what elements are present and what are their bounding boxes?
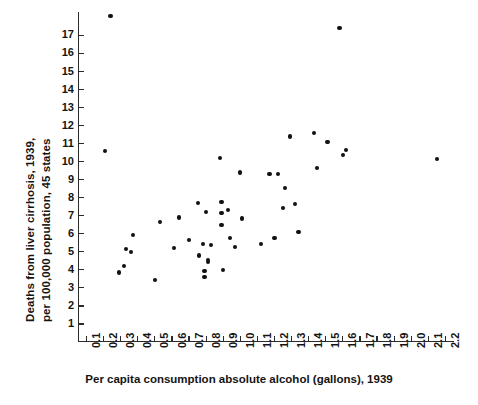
- data-point: [177, 215, 181, 219]
- x-tick-mark: [188, 336, 189, 342]
- y-tick-mark: [79, 269, 84, 270]
- y-tick-label: 4: [58, 264, 74, 275]
- data-point: [202, 275, 206, 279]
- data-point: [344, 148, 348, 152]
- data-point: [276, 172, 280, 176]
- y-tick-label: 6: [58, 228, 74, 239]
- x-tick-label: 1.4: [313, 333, 324, 348]
- data-point: [103, 149, 107, 153]
- y-tick-label: 14: [58, 84, 74, 95]
- data-point: [158, 220, 162, 224]
- y-tick-label: 3: [58, 282, 74, 293]
- x-tick-label: 2.2: [450, 333, 461, 348]
- x-tick-label: 0.7: [194, 333, 205, 348]
- data-point: [219, 200, 223, 204]
- data-point: [259, 242, 263, 246]
- x-tick-mark: [411, 336, 412, 342]
- y-tick-mark: [79, 197, 84, 198]
- y-tick-label: 7: [58, 210, 74, 221]
- data-point: [219, 223, 223, 227]
- y-tick-mark: [79, 107, 84, 108]
- x-tick-mark: [103, 336, 104, 342]
- data-point: [117, 270, 121, 274]
- x-tick-mark: [325, 336, 326, 342]
- data-point: [221, 268, 225, 272]
- x-tick-label: 1.5: [330, 333, 341, 348]
- x-tick-mark: [342, 336, 343, 342]
- x-tick-mark: [240, 336, 241, 342]
- data-point: [226, 208, 230, 212]
- y-tick-label: 9: [58, 174, 74, 185]
- data-point: [131, 233, 135, 237]
- data-point: [196, 201, 200, 205]
- x-tick-label: 0.6: [177, 333, 188, 348]
- x-tick-mark: [308, 336, 309, 342]
- y-tick-mark: [79, 305, 84, 306]
- x-tick-label: 0.8: [211, 333, 222, 348]
- data-point: [197, 253, 201, 257]
- y-tick-mark: [79, 287, 84, 288]
- data-point: [283, 186, 287, 190]
- data-point: [267, 172, 271, 176]
- data-point: [219, 211, 223, 215]
- x-tick-label: 1.6: [347, 333, 358, 348]
- y-tick-label: 15: [58, 66, 74, 77]
- data-point: [341, 153, 345, 157]
- x-tick-mark: [223, 336, 224, 342]
- y-tick-mark: [79, 215, 84, 216]
- y-tick-label: 1: [58, 318, 74, 329]
- data-point: [201, 242, 205, 246]
- data-point: [240, 216, 244, 220]
- x-tick-mark: [120, 336, 121, 342]
- x-tick-label: 1.0: [245, 333, 256, 348]
- y-tick-mark: [79, 89, 84, 90]
- x-tick-mark: [428, 336, 429, 342]
- x-tick-mark: [274, 336, 275, 342]
- data-point: [296, 230, 300, 234]
- y-tick-mark: [79, 35, 84, 36]
- y-tick-mark: [79, 125, 84, 126]
- y-axis-title: Deaths from liver cirrhosis, 1939, per 1…: [0, 0, 58, 360]
- x-tick-mark: [445, 336, 446, 342]
- x-tick-label: 1.1: [262, 333, 273, 348]
- y-tick-mark: [79, 143, 84, 144]
- x-tick-label: 0.3: [125, 333, 136, 348]
- x-axis-title: Per capita consumption absolute alcohol …: [0, 373, 478, 385]
- x-tick-label: 0.9: [228, 333, 239, 348]
- data-point: [435, 157, 439, 161]
- x-tick-label: 1.3: [296, 333, 307, 348]
- data-point: [312, 131, 316, 135]
- y-tick-label: 8: [58, 192, 74, 203]
- data-point: [272, 236, 276, 240]
- data-point: [281, 206, 285, 210]
- data-point: [172, 246, 176, 250]
- y-tick-label: 10: [58, 156, 74, 167]
- y-axis-title-line-2: per 100,000 population, 45 states: [40, 138, 52, 322]
- data-point: [337, 26, 341, 30]
- data-point: [325, 140, 329, 144]
- data-point: [206, 260, 210, 264]
- data-point: [228, 236, 232, 240]
- y-tick-label: 17: [58, 29, 74, 40]
- data-point: [293, 202, 297, 206]
- y-axis-line: [78, 12, 79, 342]
- data-point: [129, 250, 133, 254]
- y-tick-label: 12: [58, 120, 74, 131]
- x-tick-label: 1.8: [382, 333, 393, 348]
- y-axis-title-line-1: Deaths from liver cirrhosis, 1939,: [24, 138, 36, 322]
- x-tick-mark: [171, 336, 172, 342]
- x-tick-mark: [257, 336, 258, 342]
- x-tick-label: 0.5: [159, 333, 170, 348]
- x-tick-label: 2.1: [433, 333, 444, 348]
- data-point: [122, 264, 126, 268]
- y-tick-label: 16: [58, 47, 74, 58]
- x-tick-mark: [206, 336, 207, 342]
- data-point: [209, 243, 213, 247]
- x-tick-mark: [359, 336, 360, 342]
- x-tick-label: 2.0: [416, 333, 427, 348]
- y-tick-mark: [79, 161, 84, 162]
- y-tick-mark: [79, 323, 84, 324]
- scatter-chart-figure: Deaths from liver cirrhosis, 1939, per 1…: [0, 0, 478, 405]
- y-tick-mark: [79, 233, 84, 234]
- x-tick-mark: [376, 336, 377, 342]
